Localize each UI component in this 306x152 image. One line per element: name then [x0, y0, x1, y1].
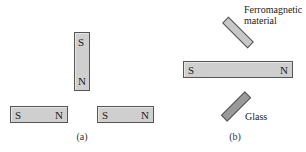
north-pole-label: N [280, 65, 288, 76]
south-pole-label: S [78, 37, 84, 48]
right-horizontal-magnet: S N [97, 106, 154, 123]
ferromagnetic-label-line1: Ferromagnetic [244, 4, 302, 15]
north-pole-label: N [78, 76, 86, 87]
bar-magnet: S N [183, 61, 293, 78]
south-pole-label: S [102, 110, 108, 121]
glass-label: Glass [245, 111, 267, 122]
north-pole-label: N [141, 110, 149, 121]
south-pole-label: S [15, 110, 21, 121]
ferromagnetic-label-line2: material [244, 15, 277, 26]
panel-b-caption: (b) [229, 132, 241, 142]
panel-a-caption: (a) [76, 132, 87, 142]
left-horizontal-magnet: S N [10, 106, 68, 123]
ferromagnetic-label: Ferromagnetic material [244, 4, 302, 26]
vertical-magnet: S N [74, 32, 90, 91]
north-pole-label: N [55, 110, 63, 121]
south-pole-label: S [188, 65, 194, 76]
